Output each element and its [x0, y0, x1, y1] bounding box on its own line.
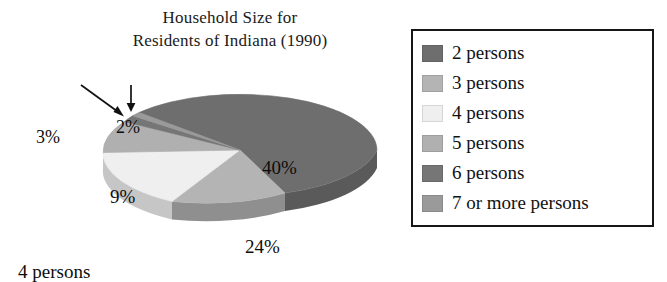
chart-legend: 2 persons 3 persons 4 persons 5 persons …	[411, 29, 654, 227]
pie-value-label-6-persons: 3%	[36, 128, 60, 147]
legend-swatch-icon-4-persons	[422, 105, 443, 122]
pie-chart: 40% 24% 9% 3% 2% 4 persons	[0, 55, 400, 264]
title-line-2: Residents of Indiana (1990)	[70, 29, 390, 52]
legend-label-6-persons: 6 persons	[452, 163, 524, 183]
leader-line-3-percent	[81, 85, 121, 114]
pie-value-label-7-or-more-persons: 2%	[116, 118, 140, 137]
pie-value-label-2-persons: 40%	[262, 158, 297, 177]
legend-swatch-icon-7-or-more-persons	[422, 195, 443, 212]
legend-item-5-persons: 5 persons	[413, 128, 652, 158]
title-line-1: Household Size for	[70, 6, 390, 29]
legend-item-6-persons: 6 persons	[413, 158, 652, 188]
legend-label-3-persons: 3 persons	[452, 73, 524, 93]
legend-item-7-or-more-persons: 7 or more persons	[413, 188, 652, 218]
legend-label-2-persons: 2 persons	[452, 43, 524, 63]
page-title: Household Size for Residents of Indiana …	[70, 6, 390, 52]
legend-label-4-persons: 4 persons	[452, 103, 524, 123]
pie-category-label-4-persons: 4 persons	[18, 262, 90, 281]
legend-label-7-or-more-persons: 7 or more persons	[452, 193, 589, 213]
pie-value-label-3-persons: 24%	[245, 237, 280, 256]
legend-swatch-icon-5-persons	[422, 135, 443, 152]
leader-lines	[81, 85, 135, 117]
legend-swatch-icon-6-persons	[422, 165, 443, 182]
legend-item-2-persons: 2 persons	[413, 38, 652, 68]
legend-swatch-icon-2-persons	[422, 45, 443, 62]
legend-label-5-persons: 5 persons	[452, 133, 524, 153]
pie-chart-svg	[0, 55, 400, 264]
legend-item-3-persons: 3 persons	[413, 68, 652, 98]
pie-value-label-5-persons: 9%	[110, 187, 135, 206]
legend-item-4-persons: 4 persons	[413, 98, 652, 128]
legend-swatch-icon-3-persons	[422, 75, 443, 92]
